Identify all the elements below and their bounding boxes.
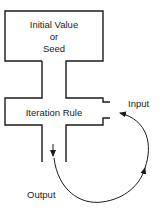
iteration-rule-label: Iteration Rule [26, 107, 83, 118]
feedback-loop-curve [54, 158, 145, 202]
output-label: Output [27, 189, 56, 200]
seed-label-line1: Initial Value [30, 19, 78, 30]
input-label: Input [128, 98, 149, 109]
seed-label-line2: or [50, 31, 58, 42]
feedback-loop-curve-upper [120, 113, 148, 168]
seed-label-line3: Seed [43, 43, 65, 54]
iteration-diagram: Initial Value or Seed Iteration Rule Inp… [0, 0, 164, 219]
